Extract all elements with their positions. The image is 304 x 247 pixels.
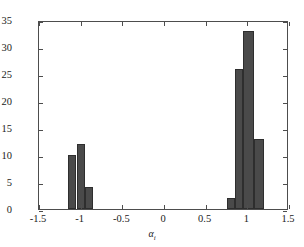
- y-axis-tick: [39, 211, 43, 212]
- histogram-bar: [235, 69, 243, 209]
- x-axis-tick: [122, 22, 123, 26]
- y-axis-tick: [39, 130, 43, 131]
- x-axis-tick-label: 1.5: [281, 214, 294, 225]
- histogram-bar: [77, 144, 85, 209]
- y-axis-tick-label: 20: [2, 97, 13, 108]
- y-axis-tick: [39, 184, 43, 185]
- y-axis-tick: [283, 22, 287, 23]
- x-axis-tick: [247, 22, 248, 26]
- x-axis-tick-label: -0.5: [113, 214, 130, 225]
- y-axis-tick: [283, 103, 287, 104]
- y-axis-tick: [283, 49, 287, 50]
- x-axis-tick-label: 0.5: [198, 214, 211, 225]
- x-axis-tick: [206, 205, 207, 209]
- y-axis-tick: [39, 49, 43, 50]
- x-axis-title: αi: [0, 228, 304, 242]
- x-axis-tick-label: 0: [160, 214, 165, 225]
- bars-layer: [39, 22, 287, 209]
- y-axis-tick-label: 10: [2, 151, 13, 162]
- x-axis-tick: [289, 22, 290, 26]
- x-axis-tick-label: 1: [244, 214, 249, 225]
- y-axis-tick: [39, 103, 43, 104]
- x-axis-tick: [206, 22, 207, 26]
- y-axis-tick: [39, 76, 43, 77]
- histogram-bar: [243, 31, 254, 209]
- y-axis-tick: [39, 157, 43, 158]
- x-axis-tick: [164, 22, 165, 26]
- y-axis-tick: [283, 211, 287, 212]
- y-axis-tick-label: 30: [2, 43, 13, 54]
- histogram-bar: [254, 139, 264, 209]
- histogram-bar: [68, 155, 76, 209]
- x-axis-tick: [39, 22, 40, 26]
- x-axis-tick-label: -1.5: [30, 214, 47, 225]
- histogram-bar: [227, 198, 235, 209]
- y-axis-tick-label: 15: [2, 124, 13, 135]
- plot-area: [38, 21, 288, 210]
- x-axis-tick: [39, 205, 40, 209]
- y-axis-tick-label: 25: [2, 70, 13, 81]
- histogram-figure: 05101520253035 -1.5-1-0.500.511.5 αi: [0, 0, 304, 247]
- y-axis-tick: [283, 130, 287, 131]
- y-axis-tick-label: 0: [7, 205, 12, 216]
- y-axis-tick: [283, 76, 287, 77]
- x-axis-tick: [81, 22, 82, 26]
- x-axis-tick: [122, 205, 123, 209]
- y-axis-tick-label: 35: [2, 16, 13, 27]
- y-axis-tick-label: 5: [7, 178, 12, 189]
- y-axis-tick: [283, 184, 287, 185]
- x-axis-title-subscript: i: [154, 234, 156, 242]
- x-axis-tick: [289, 205, 290, 209]
- x-axis-tick: [164, 205, 165, 209]
- x-axis-tick-label: -1: [75, 214, 84, 225]
- y-axis-tick: [283, 157, 287, 158]
- x-axis-tick: [247, 205, 248, 209]
- histogram-bar: [85, 187, 93, 209]
- x-axis-tick: [81, 205, 82, 209]
